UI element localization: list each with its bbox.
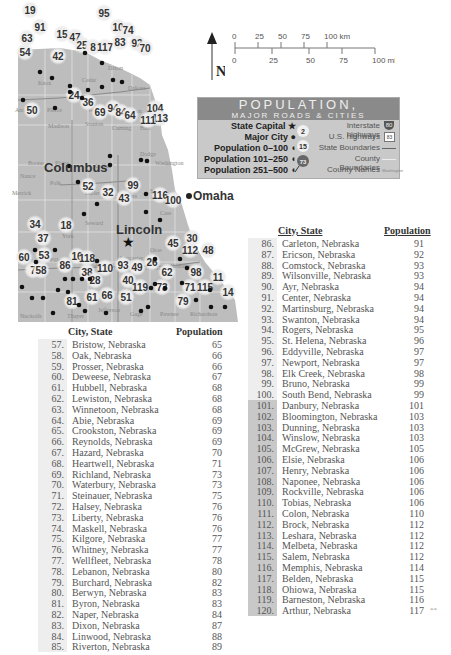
population-value: 106 bbox=[400, 497, 424, 508]
svg-text:54: 54 bbox=[19, 47, 31, 58]
town-pin-icon bbox=[82, 212, 87, 217]
county-name: Dakota bbox=[128, 85, 146, 91]
table-row: 75.Kilgore, Nebraska77 bbox=[38, 533, 228, 544]
mi-tick-label: 0 bbox=[232, 56, 237, 65]
town-pin-icon bbox=[100, 85, 105, 90]
county-name: Boone bbox=[28, 160, 44, 166]
table-row: 83.Dixon, Nebraska87 bbox=[38, 620, 228, 631]
city-omaha: Omaha bbox=[186, 189, 234, 203]
table-row: 112.Brock, Nebraska112 bbox=[248, 519, 448, 530]
svg-text:51: 51 bbox=[120, 292, 132, 303]
population-value: 65 bbox=[198, 339, 222, 350]
svg-text:118: 118 bbox=[79, 253, 96, 264]
city-name: Ayr, Nebraska bbox=[282, 281, 339, 292]
row-number: 76. bbox=[38, 544, 67, 555]
city-name: Oak, Nebraska bbox=[72, 350, 131, 361]
city-name: Comstock, Nebraska bbox=[282, 260, 365, 271]
table-row: 66.Reynolds, Nebraska69 bbox=[38, 436, 228, 447]
county-name: Dodge bbox=[140, 151, 156, 157]
column-header-city: City, State bbox=[278, 225, 322, 236]
county-name: Nance bbox=[20, 173, 36, 179]
town-pin-icon bbox=[53, 106, 58, 111]
row-number: 105. bbox=[248, 443, 277, 454]
row-number: 92. bbox=[248, 303, 277, 314]
km-tick-label: 75 bbox=[301, 32, 310, 41]
row-number: 96. bbox=[248, 346, 277, 357]
population-callout: 79 bbox=[174, 292, 192, 310]
north-arrow-icon bbox=[207, 32, 217, 44]
svg-text:61: 61 bbox=[86, 292, 98, 303]
table-row: 61.Hubbell, Nebraska68 bbox=[38, 382, 228, 393]
table-row: 102.Bloomington, Nebraska103 bbox=[248, 411, 448, 422]
table-row: 113.Leshara, Nebraska112 bbox=[248, 530, 448, 541]
population-callout: 73 bbox=[153, 278, 171, 296]
city-name: Rockville, Nebraska bbox=[282, 486, 364, 497]
population-value: 112 bbox=[400, 540, 424, 551]
population-value: 76 bbox=[198, 523, 222, 534]
population-callout: 18 bbox=[57, 216, 75, 234]
row-number: 69. bbox=[38, 469, 67, 480]
population-value: 114 bbox=[400, 562, 424, 573]
population-value: 96 bbox=[400, 335, 424, 346]
table-row: 110.Tobias, Nebraska106 bbox=[248, 497, 448, 508]
table-row: 119.Barneston, Nebraska116 bbox=[248, 594, 448, 605]
row-number: 61. bbox=[38, 382, 67, 393]
svg-text:73: 73 bbox=[300, 159, 307, 165]
table-row: 88.Comstock, Nebraska93 bbox=[248, 260, 448, 271]
legend-pop-101-250: Population 101–250 ◖ bbox=[198, 154, 296, 164]
city-name: Ohiowa, Nebraska bbox=[282, 584, 356, 595]
population-callout: 81 bbox=[63, 292, 81, 310]
city-name: Liberty, Nebraska bbox=[72, 512, 144, 523]
population-value: 69 bbox=[198, 425, 222, 436]
population-value: 83 bbox=[198, 587, 222, 598]
county-name: Jefferson bbox=[98, 307, 120, 313]
population-value: 78 bbox=[198, 555, 222, 566]
row-number: 83. bbox=[38, 620, 67, 631]
svg-text:49: 49 bbox=[131, 262, 143, 273]
row-number: 66. bbox=[38, 436, 67, 447]
table-row: 70.Waterbury, Nebraska73 bbox=[38, 479, 228, 490]
row-number: 65. bbox=[38, 425, 67, 436]
table-row: 65.Crookston, Nebraska69 bbox=[38, 425, 228, 436]
city-name: Bloomington, Nebraska bbox=[282, 411, 378, 422]
city-name: Deweese, Nebraska bbox=[72, 371, 151, 382]
table-row: 81.Byron, Nebraska83 bbox=[38, 598, 228, 609]
county-name: Merrick bbox=[12, 190, 31, 196]
row-number: 84. bbox=[38, 631, 67, 642]
city-name: Martinsburg, Nebraska bbox=[282, 303, 374, 314]
table-row: 57.Bristow, Nebraska65 bbox=[38, 339, 228, 350]
population-value: 106 bbox=[400, 465, 424, 476]
town-pin-icon bbox=[139, 309, 144, 314]
table-row: 72.Halsey, Nebraska76 bbox=[38, 501, 228, 512]
population-value: 115 bbox=[400, 573, 424, 584]
svg-text:34: 34 bbox=[29, 219, 41, 230]
svg-text:79: 79 bbox=[177, 296, 189, 307]
population-value: 103 bbox=[400, 422, 424, 433]
population-table-left: City, State Population 57.Bristow, Nebra… bbox=[38, 326, 228, 655]
svg-text:119: 119 bbox=[132, 282, 149, 293]
column-header-population: Population bbox=[176, 326, 223, 337]
row-number: 120. bbox=[248, 605, 277, 616]
table-row: 90.Ayr, Nebraska94 bbox=[248, 281, 448, 292]
legend-pop-251-500: Population 251–500 ◖ bbox=[198, 165, 296, 175]
table-row: 96.Eddyville, Nebraska97 bbox=[248, 346, 448, 357]
town-pin-icon bbox=[38, 70, 43, 75]
county-name: Thayer bbox=[67, 313, 84, 319]
table-row: 77.Wellfleet, Nebraska78 bbox=[38, 555, 228, 566]
city-name: Whitney, Nebraska bbox=[72, 544, 149, 555]
population-value: 91 bbox=[400, 238, 424, 249]
km-tick-label: 25 bbox=[255, 32, 264, 41]
town-pin-icon bbox=[83, 51, 88, 56]
legend-major-city: Major City ● bbox=[198, 132, 296, 142]
county-name-sample: Washington bbox=[382, 168, 403, 173]
row-number: 62. bbox=[38, 393, 67, 404]
population-value: 99 bbox=[400, 378, 424, 389]
table-row: 101.Danbury, Nebraska101 bbox=[248, 400, 448, 411]
population-value: 97 bbox=[400, 346, 424, 357]
population-callout: 48 bbox=[199, 241, 217, 259]
town-pin-icon bbox=[80, 96, 85, 101]
county-name: Otoe bbox=[150, 247, 162, 253]
town-pin-icon bbox=[76, 180, 81, 185]
city-name: Riverton, Nebraska bbox=[72, 641, 150, 652]
population-callout: 95 bbox=[95, 4, 113, 22]
